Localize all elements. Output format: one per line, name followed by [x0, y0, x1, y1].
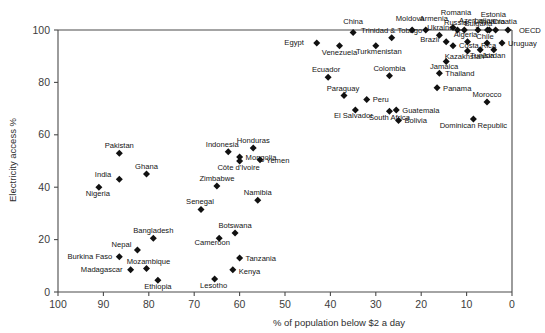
y-tick-label: 60	[38, 128, 50, 140]
point-label: China	[343, 17, 364, 26]
data-point: Egypt	[284, 38, 320, 47]
point-label: Namibia	[244, 188, 273, 197]
x-tick-label: 100	[49, 298, 67, 310]
point-label: Ecuador	[312, 65, 341, 74]
point-label: Peru	[373, 95, 389, 104]
point-label: Egypt	[284, 38, 304, 47]
scatter-plot-canvas: 1009080706050403020100020406080100 China…	[0, 0, 545, 333]
point-marker-diamond-icon	[484, 99, 491, 106]
data-point: Uruguay	[499, 39, 537, 48]
point-label: Madagascar	[81, 265, 123, 274]
data-point: Kenya	[229, 266, 261, 276]
y-tick-label: 100	[32, 24, 50, 36]
point-label: Trinidad & Tobago	[361, 26, 422, 35]
data-point: Ecuador	[312, 65, 341, 81]
x-tick-label: 0	[509, 298, 515, 310]
data-point: Croatia	[492, 17, 518, 34]
point-marker-diamond-icon	[388, 34, 395, 41]
point-label: Senegal	[186, 197, 214, 206]
point-marker-diamond-icon	[232, 230, 239, 237]
data-point: Namibia	[244, 188, 273, 204]
point-marker-diamond-icon	[127, 266, 134, 273]
point-label: Colombia	[373, 64, 406, 73]
point-marker-diamond-icon	[504, 27, 511, 34]
point-marker-diamond-icon	[499, 40, 506, 47]
point-label: Nigeria	[86, 189, 111, 198]
point-label: Pakistan	[105, 141, 134, 150]
point-label: Brazil	[420, 35, 439, 44]
point-marker-diamond-icon	[341, 92, 348, 99]
data-point: Turkmenistan	[356, 42, 402, 56]
x-axis-title: % of population below $2 a day	[273, 317, 405, 328]
y-tick-label: 80	[38, 76, 50, 88]
data-point: Peru	[363, 95, 389, 104]
point-marker-diamond-icon	[116, 253, 123, 260]
point-marker-diamond-icon	[386, 72, 393, 79]
data-point: Botswana	[218, 221, 252, 237]
point-label: OECD	[519, 26, 541, 35]
point-label: Côte d'Ivoire	[217, 163, 259, 172]
electricity-access-scatter-figure: 1009080706050403020100020406080100 China…	[0, 0, 545, 333]
y-tick-label: 0	[44, 286, 50, 298]
point-label: Algeria	[454, 30, 478, 39]
point-label: Yemen	[266, 156, 289, 165]
point-marker-diamond-icon	[250, 144, 257, 151]
data-points-group: ChinaMoldovaArmeniaRomaniaRussiaBulgaria…	[68, 8, 542, 291]
data-point: Honduras	[237, 136, 270, 152]
data-point: Ethiopia	[144, 277, 172, 292]
point-label: Uruguay	[508, 39, 537, 48]
point-label: Nepal	[112, 240, 132, 249]
x-tick-label: 90	[98, 298, 110, 310]
point-label: Venezuela	[322, 48, 358, 57]
point-label: Lesotho	[200, 281, 227, 290]
point-label: Mozambique	[127, 257, 170, 266]
data-point: Venezuela	[322, 42, 358, 57]
point-marker-diamond-icon	[225, 148, 232, 155]
data-point: Panama	[434, 84, 473, 93]
point-marker-diamond-icon	[434, 84, 441, 91]
point-label: Morocco	[472, 90, 501, 99]
x-tick-label: 60	[234, 298, 246, 310]
point-label: Jordan	[482, 51, 505, 60]
point-label: Cameroon	[194, 238, 229, 247]
point-label: Chile	[476, 32, 493, 41]
point-label: El Salvador	[334, 111, 373, 120]
point-label: Dominican Republic	[440, 121, 508, 130]
x-tick-label: 30	[370, 298, 382, 310]
data-point: Costa Rica	[449, 41, 496, 50]
point-label: Turkmenistan	[356, 47, 402, 56]
point-label: Panama	[443, 84, 472, 93]
point-label: Thailand	[445, 69, 474, 78]
y-tick-label: 40	[38, 181, 50, 193]
point-label: Bangladesh	[133, 226, 173, 235]
data-point: Nigeria	[86, 184, 111, 199]
point-marker-diamond-icon	[443, 38, 450, 45]
data-point: Brazil	[420, 35, 450, 46]
point-marker-diamond-icon	[449, 42, 456, 49]
x-tick-label: 70	[188, 298, 200, 310]
point-label: Ukraine	[427, 23, 453, 32]
data-point: Cameroon	[194, 235, 229, 248]
x-tick-label: 50	[279, 298, 291, 310]
point-marker-diamond-icon	[143, 171, 150, 178]
data-point: Bangladesh	[133, 226, 173, 242]
point-label: Tanzania	[246, 254, 277, 263]
point-label: Croatia	[492, 17, 517, 26]
point-label: Paraguay	[327, 84, 360, 93]
data-point: Dominican Republic	[440, 116, 508, 131]
data-point: Senegal	[186, 197, 214, 213]
x-tick-label: 40	[325, 298, 337, 310]
data-point: Nepal	[112, 240, 141, 254]
point-label: Botswana	[218, 221, 252, 230]
data-point: Indonesia	[206, 140, 240, 156]
data-point: Paraguay	[327, 84, 360, 100]
point-marker-diamond-icon	[150, 235, 157, 242]
data-point: Pakistan	[105, 141, 134, 157]
point-marker-diamond-icon	[236, 254, 243, 261]
data-point: Burkina Faso	[68, 252, 123, 261]
data-point: Tanzania	[236, 254, 277, 263]
point-label: Honduras	[237, 136, 270, 145]
point-marker-diamond-icon	[325, 74, 332, 81]
y-axis-title: Electricity access %	[7, 117, 18, 201]
point-marker-diamond-icon	[229, 266, 236, 273]
